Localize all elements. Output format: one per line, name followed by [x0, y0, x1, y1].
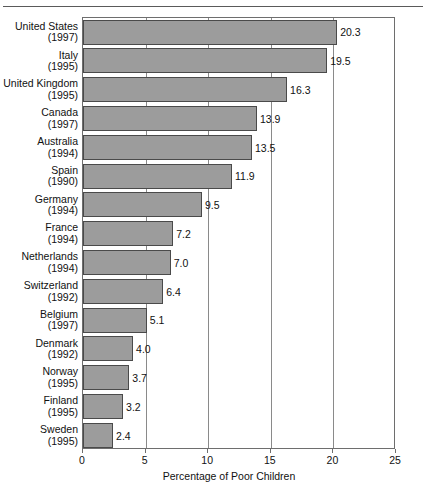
category-year: (1995)	[0, 407, 78, 419]
bar-value-label: 16.3	[290, 85, 310, 96]
x-tick-20	[332, 449, 333, 453]
bar-row: 5.1Belgium(1997)	[83, 306, 396, 335]
bar[interactable]	[83, 164, 232, 189]
bar-row: 2.4Sweden(1995)	[83, 421, 396, 450]
category-year: (1992)	[0, 349, 78, 361]
category-year: (1997)	[0, 32, 78, 44]
category-name: Switzerland	[0, 280, 78, 292]
category-year: (1995)	[0, 90, 78, 102]
category-year: (1995)	[0, 61, 78, 73]
bar-row: 13.9Canada(1997)	[83, 104, 396, 133]
bar-row: 16.3United Kingdom(1995)	[83, 76, 396, 105]
bar-row: 19.5Italy(1995)	[83, 47, 396, 76]
bar-value-label: 7.0	[174, 258, 189, 269]
category-label: Netherlands(1994)	[0, 248, 83, 277]
x-tick-15	[270, 449, 271, 453]
bar[interactable]	[83, 106, 257, 131]
x-tick-0	[82, 449, 83, 453]
bar-value-label: 2.4	[116, 430, 131, 441]
bar-row: 6.4Switzerland(1992)	[83, 277, 396, 306]
bar[interactable]	[83, 48, 327, 73]
plot-area: 20.3United States(1997)19.5Italy(1995)16…	[82, 17, 395, 449]
bar[interactable]	[83, 365, 129, 390]
bar-value-label: 19.5	[330, 56, 350, 67]
bar[interactable]	[83, 77, 287, 102]
bar-row: 3.7Norway(1995)	[83, 364, 396, 393]
bar-value-label: 4.0	[136, 344, 151, 355]
category-label: Germany(1994)	[0, 191, 83, 220]
category-year: (1992)	[0, 292, 78, 304]
bar-value-label: 3.2	[126, 402, 141, 413]
bar-row: 7.2France(1994)	[83, 220, 396, 249]
bar-row: 4.0Denmark(1992)	[83, 335, 396, 364]
category-label: Switzerland(1992)	[0, 277, 83, 306]
bar[interactable]	[83, 394, 123, 419]
bar-row: 7.0Netherlands(1994)	[83, 248, 396, 277]
x-tick-label-20: 20	[327, 455, 339, 466]
x-tick-label-10: 10	[201, 455, 213, 466]
category-year: (1994)	[0, 234, 78, 246]
category-label: Italy(1995)	[0, 47, 83, 76]
category-label: United Kingdom(1995)	[0, 76, 83, 105]
category-label: Sweden(1995)	[0, 421, 83, 450]
category-label: Spain(1990)	[0, 162, 83, 191]
bar[interactable]	[83, 20, 337, 45]
bar-value-label: 3.7	[132, 373, 147, 384]
x-tick-5	[145, 449, 146, 453]
bar-row: 13.5Australia(1994)	[83, 133, 396, 162]
bar-value-label: 13.5	[255, 142, 275, 153]
bar[interactable]	[83, 423, 113, 448]
bar-row: 3.2Finland(1995)	[83, 392, 396, 421]
category-year: (1994)	[0, 205, 78, 217]
bar[interactable]	[83, 250, 171, 275]
x-axis: 0510152025	[82, 449, 395, 450]
bar[interactable]	[83, 135, 252, 160]
category-label: United States(1997)	[0, 18, 83, 47]
category-label: Belgium(1997)	[0, 306, 83, 335]
category-year: (1994)	[0, 148, 78, 160]
category-year: (1990)	[0, 176, 78, 188]
bar-value-label: 11.9	[235, 171, 255, 182]
bar-row: 9.5Germany(1994)	[83, 191, 396, 220]
top-divider-rule	[3, 6, 423, 7]
category-label: Australia(1994)	[0, 133, 83, 162]
bar[interactable]	[83, 308, 147, 333]
x-tick-label-15: 15	[264, 455, 276, 466]
bar-value-label: 20.3	[340, 27, 360, 38]
bar[interactable]	[83, 221, 173, 246]
category-label: France(1994)	[0, 220, 83, 249]
bar-value-label: 5.1	[150, 315, 165, 326]
bar-value-label: 6.4	[166, 286, 181, 297]
x-axis-label: Percentage of Poor Children	[163, 470, 296, 482]
category-label: Finland(1995)	[0, 392, 83, 421]
x-tick-label-5: 5	[142, 455, 148, 466]
category-label: Norway(1995)	[0, 364, 83, 393]
x-axis-label-wrap: Percentage of Poor Children	[0, 470, 426, 482]
chart-figure: 20.3United States(1997)19.5Italy(1995)16…	[0, 0, 426, 493]
category-year: (1997)	[0, 320, 78, 332]
x-tick-25	[395, 449, 396, 453]
category-name: Sweden	[0, 424, 78, 436]
bar-value-label: 7.2	[176, 229, 191, 240]
bar[interactable]	[83, 192, 202, 217]
bar-row: 20.3United States(1997)	[83, 18, 396, 47]
bar-row: 11.9Spain(1990)	[83, 162, 396, 191]
x-tick-label-0: 0	[79, 455, 85, 466]
category-year: (1994)	[0, 263, 78, 275]
x-tick-10	[207, 449, 208, 453]
x-tick-label-25: 25	[389, 455, 401, 466]
category-year: (1995)	[0, 436, 78, 448]
category-label: Canada(1997)	[0, 104, 83, 133]
category-name: Australia	[0, 136, 78, 148]
bar-value-label: 13.9	[260, 114, 280, 125]
bar[interactable]	[83, 336, 133, 361]
bar[interactable]	[83, 279, 163, 304]
bar-value-label: 9.5	[205, 200, 220, 211]
category-label: Denmark(1992)	[0, 335, 83, 364]
category-year: (1997)	[0, 119, 78, 131]
category-year: (1995)	[0, 378, 78, 390]
